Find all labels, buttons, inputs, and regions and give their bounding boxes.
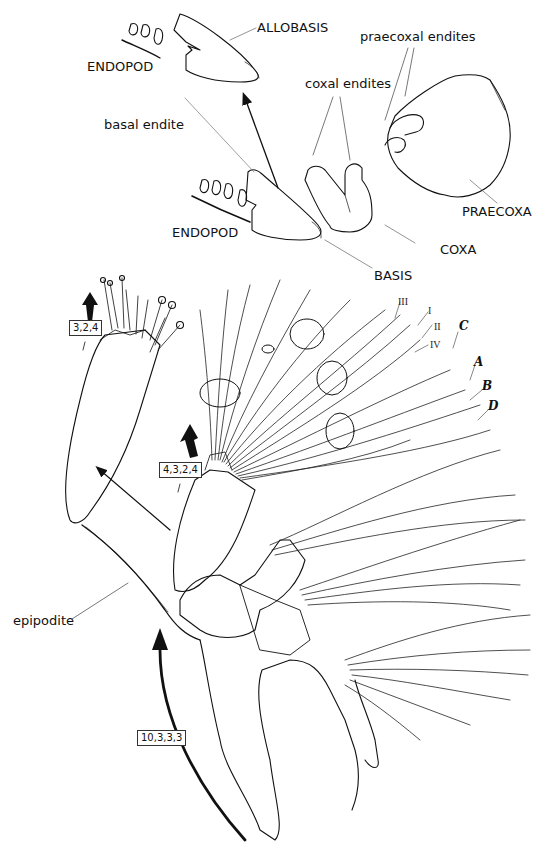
label-basis: BASIS — [374, 269, 412, 282]
formula-box-endopod-detail: 3,2,4 — [69, 320, 102, 336]
formula-box-endopod-main: 4,3,2,4 — [159, 462, 202, 478]
coxa-leader — [385, 225, 415, 243]
label-coxal-endites: coxal endites — [305, 77, 391, 90]
coxal-endites-leader-2 — [340, 97, 350, 160]
seta-label-I: I — [428, 306, 431, 316]
label-allobasis: ALLOBASIS — [257, 21, 328, 34]
seta-label-B: B — [482, 380, 492, 392]
seta-label-A: A — [474, 356, 483, 368]
allobasis-leader — [230, 28, 256, 40]
seta-label-III: III — [398, 297, 408, 307]
endopod-top-segments — [122, 23, 163, 58]
basis-drawing — [246, 170, 321, 240]
seta-label-D: D — [488, 400, 498, 412]
praecoxal-endites-leader-2 — [405, 48, 414, 96]
detail-arrow — [100, 470, 170, 530]
transform-arrow — [245, 98, 278, 188]
basis-leader — [325, 240, 372, 268]
setae-lower — [270, 450, 530, 740]
label-basal-endite: basal endite — [104, 118, 184, 131]
label-coxa: COXA — [440, 243, 476, 256]
limb-illustration — [0, 0, 541, 849]
endopod-mid-segments — [192, 179, 250, 222]
label-epipodite: epipodite — [13, 614, 74, 627]
epipodite-leader — [72, 583, 128, 619]
formula-box-limb-base: 10,3,3,3 — [137, 730, 186, 746]
label-endopod-top: ENDOPOD — [87, 60, 153, 73]
label-praecoxal-endites: praecoxal endites — [360, 30, 476, 43]
label-praecoxa: PRAECOXA — [462, 205, 532, 218]
bold-arrow-small — [82, 292, 98, 322]
bold-arrow-medium — [180, 424, 198, 458]
endopod-detail-drawing — [66, 276, 184, 523]
setae-fan — [200, 280, 490, 480]
praecoxa-leader — [470, 180, 497, 203]
basal-endite-leader — [185, 98, 254, 172]
seta-label-C: C — [459, 320, 469, 332]
praecoxa-drawing — [385, 75, 510, 197]
seta-label-IV: IV — [430, 340, 441, 350]
coxal-endites-leader-1 — [313, 97, 333, 155]
main-limb-drawing — [82, 452, 378, 840]
allobasis-drawing — [174, 14, 259, 82]
seta-label-II: II — [434, 322, 441, 332]
label-endopod-mid: ENDOPOD — [172, 226, 238, 239]
